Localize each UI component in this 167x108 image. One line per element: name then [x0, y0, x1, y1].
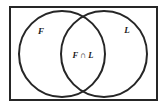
- venn-diagram-svg: F L F ∩ L: [0, 0, 167, 108]
- intersection-label-f-and-l: F ∩ L: [71, 50, 93, 60]
- set-label-l: L: [123, 25, 130, 35]
- set-label-f: F: [37, 26, 44, 36]
- venn-diagram-figure: F L F ∩ L: [0, 0, 167, 108]
